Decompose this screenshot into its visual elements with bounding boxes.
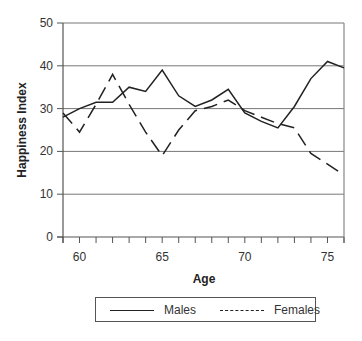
legend-item-females: Females [220, 303, 320, 317]
tick-labels: 0102030405060657075 [40, 16, 335, 264]
series-line-females [63, 74, 344, 174]
x-tick-label: 60 [73, 250, 87, 264]
line-chart: 0102030405060657075 Age Happiness Index [0, 0, 362, 341]
x-tick-label: 70 [238, 250, 252, 264]
x-axis-title: Age [193, 272, 216, 286]
y-tick-label: 40 [40, 59, 54, 73]
dashed-line-swatch [220, 310, 264, 311]
x-tick-label: 75 [321, 250, 335, 264]
x-tick-label: 65 [155, 250, 169, 264]
solid-line-swatch [110, 310, 154, 311]
y-tick-label: 50 [40, 16, 54, 30]
y-tick-label: 20 [40, 144, 54, 158]
y-tick-label: 0 [46, 230, 53, 244]
gridlines [63, 23, 344, 194]
series-line-males [63, 62, 344, 128]
axes [57, 23, 344, 243]
legend-item-males: Males [110, 303, 196, 317]
legend-label: Males [164, 303, 196, 317]
y-tick-label: 30 [40, 102, 54, 116]
y-axis-title: Happiness Index [15, 82, 29, 178]
data-series [63, 62, 344, 175]
legend: Males Females [95, 297, 316, 322]
legend-label: Females [274, 303, 320, 317]
y-tick-label: 10 [40, 187, 54, 201]
